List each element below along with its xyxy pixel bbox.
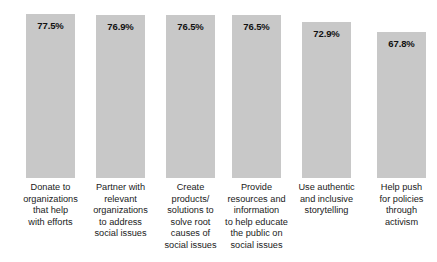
bar-value-label: 76.9%: [96, 21, 145, 32]
bar-group: 76.5% Create products/ solutions to solv…: [166, 0, 215, 262]
bar-category-label: Use authentic and inclusive storytelling: [294, 182, 359, 217]
bar-group: 77.5% Donate to organizations that help …: [26, 0, 75, 262]
bar-category-label: Partner with relevant organizations to a…: [88, 182, 153, 240]
bar[interactable]: [26, 14, 75, 178]
bar-category-label: Help push for policies through activism: [369, 182, 434, 228]
bar-chart: 77.5% Donate to organizations that help …: [0, 0, 437, 262]
bar-value-label: 72.9%: [302, 28, 351, 39]
plot-area: 77.5% Donate to organizations that help …: [0, 0, 437, 262]
bar-category-label: Create products/ solutions to solve root…: [158, 182, 223, 252]
bar[interactable]: [377, 32, 426, 178]
bar[interactable]: [166, 15, 215, 178]
bar-value-label: 76.5%: [166, 21, 215, 32]
bar-group: 67.8% Help push for policies through act…: [377, 0, 426, 262]
bar-group: 76.5% Provide resources and information …: [232, 0, 281, 262]
bar[interactable]: [96, 15, 145, 178]
bar-category-label: Donate to organizations that help with e…: [18, 182, 83, 228]
bar[interactable]: [232, 15, 281, 178]
bar-value-label: 77.5%: [26, 20, 75, 31]
bar-group: 76.9% Partner with relevant organization…: [96, 0, 145, 262]
bar-category-label: Provide resources and information to hel…: [224, 182, 289, 252]
bar[interactable]: [302, 22, 351, 178]
bar-group: 72.9% Use authentic and inclusive storyt…: [302, 0, 351, 262]
bar-value-label: 67.8%: [377, 38, 426, 49]
bar-value-label: 76.5%: [232, 21, 281, 32]
